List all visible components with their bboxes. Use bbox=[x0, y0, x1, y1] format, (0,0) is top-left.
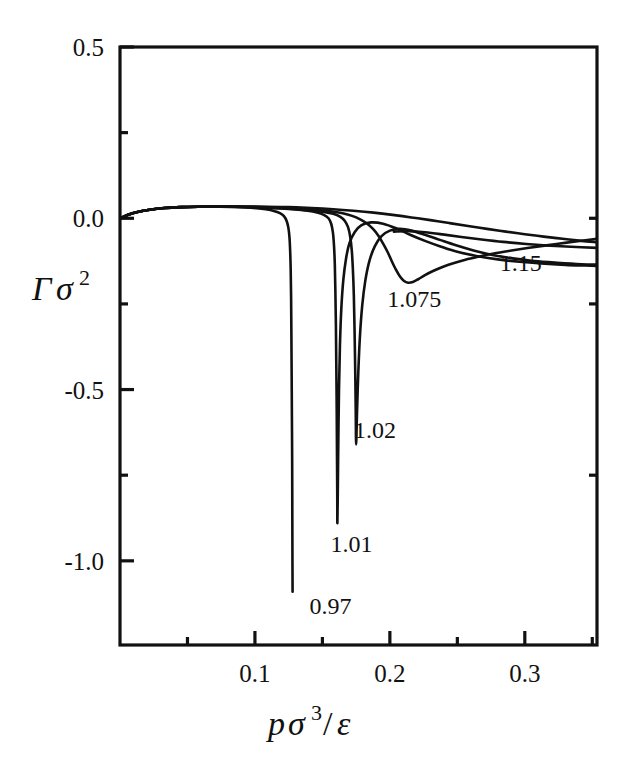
x-axis-title-p: p bbox=[266, 705, 285, 742]
x-axis-title-sigma: σ bbox=[288, 705, 306, 742]
curve-label-1.02: 1.02 bbox=[354, 417, 396, 443]
curve-label-1.01: 1.01 bbox=[331, 531, 373, 557]
y-tick-label: -0.5 bbox=[64, 377, 104, 404]
y-tick-label: 0.0 bbox=[73, 205, 104, 232]
y-tick-label: -1.0 bbox=[64, 548, 104, 575]
x-axis-title-slash: / bbox=[323, 705, 333, 742]
y-axis-title-gamma: Γ bbox=[31, 270, 53, 307]
x-tick-label: 0.2 bbox=[374, 660, 405, 687]
x-tick-label: 0.3 bbox=[509, 660, 540, 687]
curve-label-1.075: 1.075 bbox=[387, 286, 441, 312]
curve-label-1.15: 1.15 bbox=[500, 250, 542, 276]
x-axis-title-epsilon: ε bbox=[337, 705, 351, 742]
y-axis-title-sigma: σ bbox=[56, 270, 74, 307]
curve-label-0.97: 0.97 bbox=[310, 593, 352, 619]
y-tick-label: 0.5 bbox=[73, 34, 104, 61]
figure-container: 0.10.20.30.50.0-0.5-1.0 0.971.011.021.07… bbox=[0, 0, 626, 776]
y-axis-title-exponent: 2 bbox=[79, 265, 90, 290]
x-axis-title-exponent: 3 bbox=[311, 700, 322, 725]
x-tick-label: 0.1 bbox=[239, 660, 270, 687]
chart-svg: 0.10.20.30.50.0-0.5-1.0 0.971.011.021.07… bbox=[0, 0, 626, 776]
